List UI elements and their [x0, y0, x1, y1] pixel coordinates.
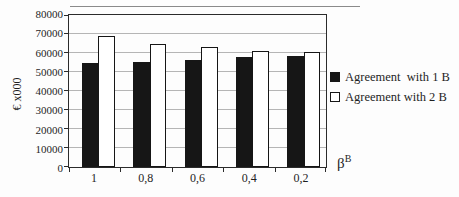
bar-series1-cat-0,4 [236, 57, 252, 167]
bar-series2-cat-1 [98, 36, 114, 167]
bar-series1-cat-0,8 [133, 62, 149, 167]
x-tick-label-1: 1 [68, 171, 120, 185]
y-axis-tick-10000 [64, 147, 68, 148]
bar-series2-cat-0,6 [201, 47, 217, 167]
y-axis-tick-20000 [64, 128, 68, 129]
x-axis-tick-labels: 10,80,60,40,2 [68, 171, 327, 187]
bar-series1-cat-1 [82, 63, 98, 167]
bar-series1-cat-0,2 [287, 56, 303, 167]
x-tick-label-0,2: 0,2 [275, 171, 327, 185]
category-cell-0,4 [223, 15, 274, 167]
bar-series2-cat-0,4 [252, 51, 268, 167]
y-axis-tick-70000 [64, 33, 68, 34]
legend-item-2: Agreement with 2 B [330, 87, 450, 107]
x-tick-label-0,4: 0,4 [223, 171, 275, 185]
y-tick-label-10000: 10000 [20, 142, 63, 156]
chart-area-top-border [70, 6, 360, 7]
x-axis-title: βB [337, 150, 351, 172]
y-axis-tick-0 [64, 166, 68, 167]
y-axis-tick-80000 [64, 15, 68, 16]
category-cell-0,2 [275, 15, 326, 167]
bar-series2-cat-0,2 [304, 52, 320, 167]
category-cell-0,6 [172, 15, 223, 167]
y-tick-label-40000: 40000 [20, 84, 63, 98]
x-axis-title-superscript: B [345, 153, 352, 164]
legend: Agreement with 1 BAgreement with 2 B [330, 67, 450, 107]
y-tick-label-80000: 80000 [20, 7, 63, 21]
y-axis-tick-50000 [64, 71, 68, 72]
legend-item-label-1: Agreement with 1 B [345, 70, 450, 85]
bar-series1-cat-0,6 [185, 60, 201, 167]
plot-area [68, 14, 327, 168]
y-axis-tick-30000 [64, 109, 68, 110]
y-axis-tick-60000 [64, 52, 68, 53]
y-axis-tick-labels: 0100002000030000400005000060000700008000… [20, 14, 63, 168]
x-tick-label-0,6: 0,6 [172, 171, 224, 185]
x-axis-title-base: β [337, 155, 345, 171]
legend-swatch-series1 [330, 72, 340, 82]
category-cell-0,8 [120, 15, 171, 167]
legend-swatch-series2 [330, 92, 340, 102]
y-tick-label-70000: 70000 [20, 26, 63, 40]
y-axis-tick-40000 [64, 90, 68, 91]
y-tick-label-30000: 30000 [20, 103, 63, 117]
y-tick-label-0: 0 [20, 161, 63, 175]
legend-item-label-2: Agreement with 2 B [345, 90, 447, 105]
x-tick-label-0,8: 0,8 [120, 171, 172, 185]
bar-series2-cat-0,8 [150, 44, 166, 167]
y-tick-label-60000: 60000 [20, 46, 63, 60]
y-tick-label-20000: 20000 [20, 123, 63, 137]
legend-item-1: Agreement with 1 B [330, 67, 450, 87]
category-cell-1 [69, 15, 120, 167]
bar-chart-figure: € x000 010000200003000040000500006000070… [0, 0, 459, 197]
y-tick-label-50000: 50000 [20, 65, 63, 79]
